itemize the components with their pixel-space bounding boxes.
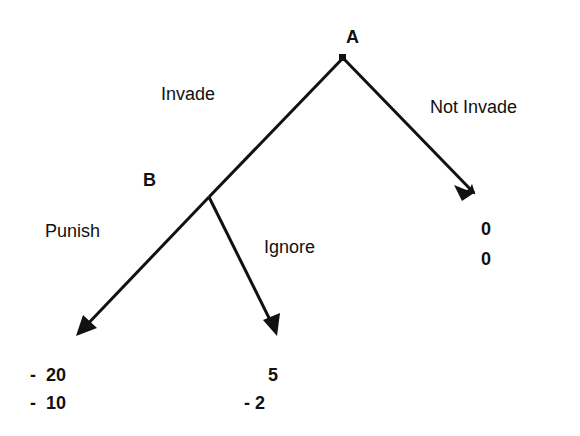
payoff-punish-a: - 20	[30, 366, 66, 384]
payoff-not-invade-a: 0	[481, 220, 491, 238]
arrowhead-not-invade-icon	[454, 185, 474, 201]
payoff-ignore-a: 5	[268, 366, 278, 384]
payoff-punish-b: - 10	[30, 394, 66, 412]
edge-not-invade	[343, 58, 474, 193]
branch-punish-label: Punish	[45, 222, 100, 240]
game-tree-edges	[0, 0, 580, 436]
edge-invade	[209, 58, 343, 197]
branch-not-invade-label: Not Invade	[430, 98, 517, 116]
branch-ignore-label: Ignore	[264, 238, 315, 256]
payoff-ignore-b: - 2	[244, 394, 265, 412]
node-a-label: A	[346, 28, 359, 46]
arrowhead-ignore-icon	[263, 313, 280, 336]
branch-invade-label: Invade	[161, 85, 215, 103]
node-b-label: B	[143, 171, 156, 189]
payoff-not-invade-b: 0	[481, 250, 491, 268]
edge-ignore	[209, 197, 274, 328]
edge-punish	[82, 197, 209, 330]
